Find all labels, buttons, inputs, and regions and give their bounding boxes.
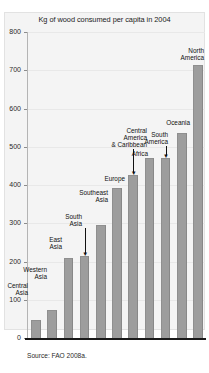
bar-label-central-asia: Central Asia — [2, 282, 28, 296]
bar-western-asia[interactable] — [47, 310, 57, 338]
arrow-down-icon: ▼ — [82, 251, 89, 257]
bar-southeast-asia[interactable] — [96, 225, 106, 338]
bar-label-western-asia: Western Asia — [17, 266, 47, 280]
y-tick-label: 300 — [0, 219, 21, 226]
arrow-down-icon: ▼ — [163, 153, 170, 159]
bar-south-america[interactable] — [161, 158, 171, 338]
chart-title: Kg of wood consumed per capita in 2004 — [4, 15, 205, 24]
figure-container: Kg of wood consumed per capita in 2004 0… — [0, 0, 209, 373]
bar-north-america[interactable] — [193, 65, 203, 338]
bar-central-asia[interactable] — [31, 320, 41, 338]
bar-europe[interactable] — [112, 188, 122, 338]
y-tick-label: 700 — [0, 66, 21, 73]
bar-label-oceania: Oceania — [157, 119, 190, 126]
source-note: Source: FAO 2008a. — [27, 352, 87, 359]
bar-label-north-america: North America — [172, 47, 204, 61]
arrow-down-icon: ▼ — [130, 170, 137, 176]
y-tick-label: 800 — [0, 28, 21, 35]
bar-label-europe: Europe — [95, 175, 125, 182]
y-tick-label: 200 — [0, 258, 21, 265]
bar-oceania[interactable] — [177, 133, 187, 338]
y-tick-label: 0 — [0, 334, 21, 341]
bar-label-south-asia: South Asia — [56, 213, 82, 227]
y-tick-label: 500 — [0, 143, 21, 150]
bar-label-south-america: South America — [139, 131, 168, 145]
bar-central-america-caribbean[interactable] — [128, 175, 138, 338]
bar-africa[interactable] — [145, 158, 155, 338]
bar-east-asia[interactable] — [64, 258, 74, 338]
y-tick-label: 400 — [0, 181, 21, 188]
bar-south-asia[interactable] — [80, 256, 90, 338]
y-tick-label: 100 — [0, 296, 21, 303]
bar-label-africa: Africa — [124, 150, 148, 157]
y-tick-label: 600 — [0, 105, 21, 112]
arrow-stem-icon — [85, 228, 86, 253]
bars-layer — [27, 32, 205, 338]
bar-label-east-asia: East Asia — [40, 236, 62, 250]
bar-label-southeast-asia: Southeast Asia — [66, 189, 108, 203]
x-axis-line — [25, 338, 206, 340]
